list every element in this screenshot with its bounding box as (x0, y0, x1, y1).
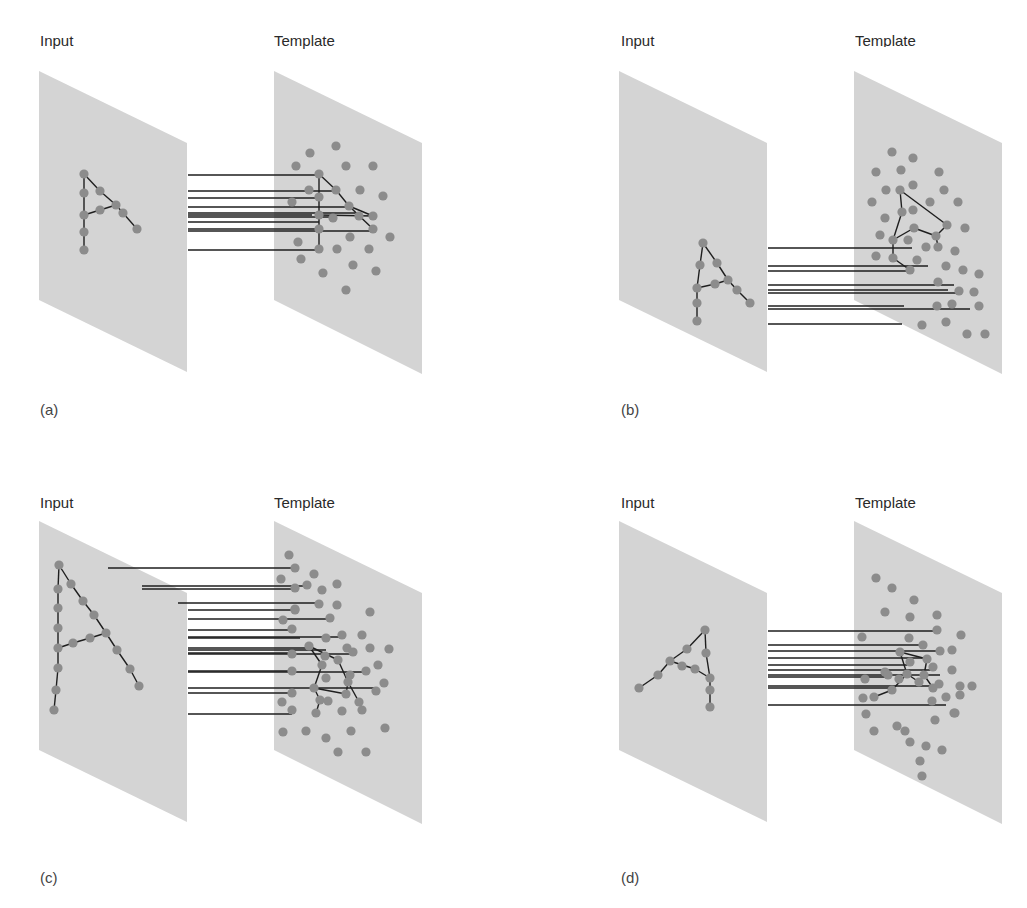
template-point (895, 185, 904, 194)
template-point (333, 747, 342, 756)
input-point (112, 645, 121, 654)
panel-d (619, 521, 1002, 824)
template-point (293, 237, 302, 246)
template-point (384, 644, 393, 653)
template-point (909, 595, 918, 604)
template-point (368, 161, 377, 170)
input-point (634, 683, 643, 692)
template-point (960, 223, 969, 232)
template-point (278, 727, 287, 736)
template-point (900, 726, 909, 735)
template-point (361, 747, 370, 756)
template-point (301, 726, 310, 735)
input-point (66, 579, 75, 588)
template-point (892, 721, 901, 730)
template-point (902, 669, 911, 678)
template-point (305, 148, 314, 157)
template-point (888, 253, 897, 262)
template-point (958, 265, 967, 274)
template-point (941, 261, 950, 270)
input-point (698, 238, 707, 247)
template-point (341, 285, 350, 294)
panel-c (39, 521, 422, 824)
template-point (314, 210, 323, 219)
template-point (318, 268, 327, 277)
input-point (700, 625, 709, 634)
template-point (904, 633, 913, 642)
template-point (371, 266, 380, 275)
template-point (345, 232, 354, 241)
template-point (956, 630, 965, 639)
template-point (930, 715, 939, 724)
template-point (880, 213, 889, 222)
template-point (935, 646, 944, 655)
template-point (315, 695, 324, 704)
template-point (357, 630, 366, 639)
template-point (314, 224, 323, 233)
input-point (54, 560, 63, 569)
input-point (53, 663, 62, 672)
template-point (909, 223, 918, 232)
template-point (950, 708, 959, 717)
panel-c-caption: (c) (40, 869, 58, 886)
template-point (871, 251, 880, 260)
template-point (947, 299, 956, 308)
input-point (723, 275, 732, 284)
template-point (348, 260, 357, 269)
template-point (325, 613, 334, 622)
template-point (869, 692, 878, 701)
input-point (745, 298, 754, 307)
template-point (380, 723, 389, 732)
input-point (49, 705, 58, 714)
template-point (337, 706, 346, 715)
input-point (79, 169, 88, 178)
template-point (346, 726, 355, 735)
template-point (290, 583, 299, 592)
template-point (332, 244, 341, 253)
panel-b-caption: (b) (621, 401, 639, 418)
template-point (341, 161, 350, 170)
template-point (941, 692, 950, 701)
template-point (883, 670, 892, 679)
input-point (51, 685, 60, 694)
template-point (894, 674, 903, 683)
template-point (860, 674, 869, 683)
template-point (941, 317, 950, 326)
diagram-canvas (0, 0, 1027, 908)
template-point (314, 169, 323, 178)
input-point (101, 628, 110, 637)
template-point (287, 197, 296, 206)
input-point (118, 208, 127, 217)
input-plane (619, 71, 767, 372)
template-point (912, 255, 921, 264)
template-point (917, 771, 926, 780)
template-point (903, 235, 912, 244)
template-point (927, 696, 936, 705)
template-point (905, 265, 914, 274)
input-point (68, 638, 77, 647)
panel-b-template-label: Template (855, 32, 916, 47)
template-point (333, 655, 342, 664)
template-point (925, 197, 934, 206)
template-point (348, 647, 357, 656)
input-point (95, 186, 104, 195)
template-point (344, 201, 353, 210)
input-point (665, 656, 674, 665)
template-point (309, 683, 318, 692)
template-point (317, 585, 326, 594)
template-point (371, 686, 380, 695)
template-point (321, 673, 330, 682)
input-plane (39, 71, 187, 372)
template-point (937, 745, 946, 754)
template-point (365, 643, 374, 652)
template-point (881, 185, 890, 194)
template-point (857, 632, 866, 641)
input-point (79, 188, 88, 197)
template-point (341, 689, 350, 698)
template-point (947, 665, 956, 674)
input-point (111, 200, 120, 209)
template-plane (854, 71, 1002, 374)
template-point (287, 705, 296, 714)
template-point (908, 180, 917, 189)
template-point (323, 696, 332, 705)
